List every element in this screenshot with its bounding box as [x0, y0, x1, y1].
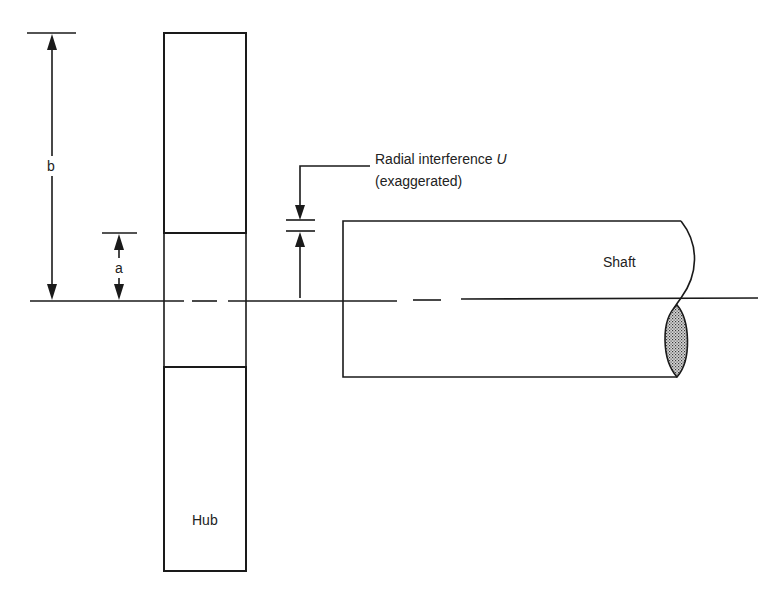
radial-interference-dimension: Radial interference U (exaggerated)	[286, 151, 507, 298]
dimension-a-label: a	[115, 260, 123, 276]
shaft-label: Shaft	[603, 254, 636, 270]
dimension-b-label: b	[47, 158, 55, 174]
shrink-fit-diagram: Hub b a Radial interference U	[0, 0, 782, 600]
exaggerated-note: (exaggerated)	[375, 173, 462, 189]
radial-interference-label: Radial interference U	[375, 151, 507, 167]
radial-interference-text: Radial interference	[375, 151, 496, 167]
hub-upper-section	[164, 33, 246, 233]
shaft-break-upper	[674, 221, 695, 308]
hub-lower-section	[164, 367, 246, 571]
centerline	[30, 298, 758, 301]
interference-symbol: U	[496, 151, 507, 167]
shaft-break-section	[665, 305, 688, 377]
hub-bore	[164, 233, 246, 367]
hub-label: Hub	[192, 512, 218, 528]
hub: Hub	[164, 33, 246, 571]
dimension-b: b	[27, 33, 76, 300]
dimension-a: a	[102, 233, 137, 300]
